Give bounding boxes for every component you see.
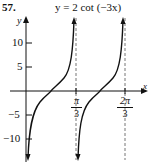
x-tick-pi-over-3: π 3 <box>71 96 82 119</box>
x-tick-2pi-over-3: 2π 3 <box>117 96 133 119</box>
x-axis-label: x <box>143 82 147 91</box>
y-axis-arrow-icon <box>23 16 29 23</box>
curve-branch-1 <box>28 20 74 158</box>
y-tick-10: 10 <box>12 37 23 48</box>
cotangent-graph <box>0 0 150 166</box>
curve-branch-2 <box>78 20 123 158</box>
y-tick-neg5: −5 <box>8 109 20 120</box>
y-tick-5: 5 <box>17 61 23 72</box>
y-axis-label: y <box>17 16 21 26</box>
y-tick-neg10: −10 <box>3 133 20 144</box>
